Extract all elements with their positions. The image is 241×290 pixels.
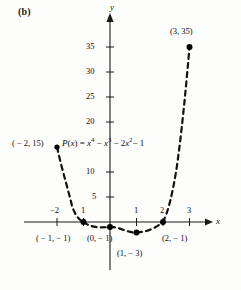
equation-term2-exponent: 3: [108, 136, 111, 143]
point-label-1-neg3: (1, − 3): [117, 248, 142, 258]
x-tick-label-1: 1: [134, 205, 138, 215]
y-tick-label-25: 25: [86, 91, 95, 101]
figure-panel: (b): [0, 0, 241, 290]
equation-close-paren: ): [75, 138, 78, 148]
equation-equals: =: [80, 138, 85, 148]
point-label-2-neg1: (2, − 1): [162, 233, 187, 243]
equation-operator-1: −: [97, 138, 102, 148]
point-label-0-neg1: (0, − 1): [87, 233, 112, 243]
data-point: [187, 44, 193, 50]
equation-term1-exponent: 4: [91, 136, 94, 143]
point-label-3-35: (3, 35): [170, 26, 193, 36]
y-tick-label-35: 35: [86, 41, 95, 51]
equation-operator-3: −: [132, 138, 137, 148]
data-point: [107, 224, 113, 230]
curve-trough: [84, 222, 164, 233]
x-axis: [24, 218, 213, 225]
x-tick-label-neg1: 1: [81, 205, 85, 215]
equation-operator-2: −: [113, 138, 118, 148]
equation-term4-constant: 1: [140, 138, 145, 148]
point-label-neg2-15: ( − 2, 15): [12, 138, 44, 148]
x-tick-label-2: 2: [160, 205, 164, 215]
y-tick-label-5: 5: [92, 191, 96, 201]
y-tick-label-30: 30: [86, 66, 95, 76]
data-point: [160, 219, 166, 225]
curve-left-branch: [57, 147, 84, 222]
data-point: [134, 230, 140, 236]
y-axis-label: y: [110, 2, 114, 12]
curve-right-branch: [163, 47, 190, 222]
y-tick-label-10: 10: [86, 166, 95, 176]
data-point: [54, 144, 59, 149]
x-axis-label: x: [216, 216, 220, 226]
x-tick-label-3: 3: [187, 205, 191, 215]
y-tick-label-20: 20: [86, 116, 95, 126]
data-point: [81, 219, 87, 225]
point-label-neg1-neg1: ( − 1, − 1): [36, 233, 70, 243]
equation-label: P(x) = x4 − x3 − 2x2− 1: [62, 138, 144, 148]
x-tick-label-neg2: −2: [50, 205, 59, 215]
